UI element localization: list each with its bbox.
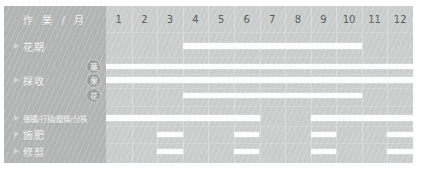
page-edge-right [413,0,421,175]
month-header-3: 3 [157,6,183,32]
month-header-5: 5 [208,6,234,32]
row-label-text: 播種/扦插/壓條/分株 [23,113,87,124]
month-header-1: 1 [106,6,132,32]
bar-施肥-4 [387,132,413,137]
bar-播種/扦插/壓條/分株-1 [106,115,260,121]
header-title: 作 業 / 月 [23,12,87,27]
bar-修剪-2 [234,149,260,154]
row-label-6[interactable]: 修剪 [14,144,44,158]
triangle-bullet-icon [14,115,19,121]
row-label-2[interactable]: 採收 [14,73,44,87]
chart-panel: 作 業 / 月 花期採收播種/扦插/壓條/分株施肥修剪 葉果花 12345678… [4,6,413,163]
bar-施肥-3 [311,132,337,137]
row-gridline [106,88,413,89]
bar-修剪-4 [387,149,413,154]
bar-採收-果-1 [106,77,413,83]
row-gridline [106,57,413,58]
month-header-12: 12 [387,6,413,32]
cultivation-calendar-chart: 作 業 / 月 花期採收播種/扦插/壓條/分株施肥修剪 葉果花 12345678… [0,0,421,175]
bar-修剪-3 [311,149,337,154]
month-header-8: 8 [285,6,311,32]
bar-施肥-2 [234,132,260,137]
bar-採收-葉-1 [106,64,413,69]
row-label-0[interactable]: 花期 [14,39,44,53]
row-gridline [106,106,413,107]
bar-花期-1 [183,43,362,49]
bar-修剪-1 [157,149,183,154]
row-label-5[interactable]: 施肥 [14,127,44,141]
harvest-badge-花[interactable]: 花 [86,88,101,103]
bar-播種/扦插/壓條/分株-2 [311,115,413,121]
page-edge-left [0,0,4,175]
row-gridline [106,143,413,144]
triangle-bullet-icon [14,77,19,83]
triangle-bullet-icon [14,43,19,49]
row-label-4[interactable]: 播種/扦插/壓條/分株 [14,111,87,125]
table-header-cell: 作 業 / 月 [4,6,106,32]
month-header-2: 2 [132,6,158,32]
row-gridline [106,32,413,33]
month-header-9: 9 [311,6,337,32]
page-edge-bottom [0,163,421,175]
month-header-10: 10 [336,6,362,32]
month-header-6: 6 [234,6,260,32]
row-gridline [106,126,413,127]
harvest-badge-果[interactable]: 果 [86,73,101,88]
row-label-text: 修剪 [23,144,44,159]
page-edge-top [0,0,421,6]
row-label-text: 採收 [23,73,44,88]
month-header-11: 11 [362,6,388,32]
harvest-badge-葉[interactable]: 葉 [86,59,101,74]
row-label-text: 花期 [23,39,44,54]
month-header-4: 4 [183,6,209,32]
triangle-bullet-icon [14,148,19,154]
row-gridline [106,74,413,75]
row-label-text: 施肥 [23,127,44,142]
row-label-column: 作 業 / 月 花期採收播種/扦插/壓條/分株施肥修剪 葉果花 [4,6,106,163]
month-header-7: 7 [260,6,286,32]
bar-施肥-1 [157,132,183,137]
triangle-bullet-icon [14,131,19,137]
bar-採收-花-1 [183,93,362,98]
